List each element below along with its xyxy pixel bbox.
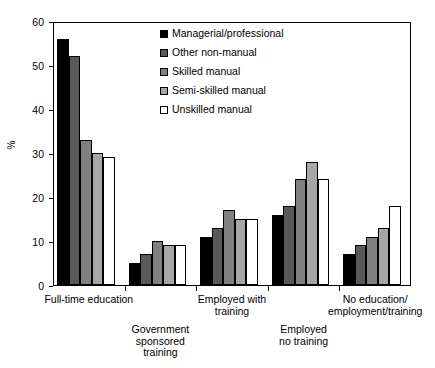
bar bbox=[246, 219, 258, 285]
y-tick-label: 40 bbox=[22, 105, 44, 116]
legend-item: Unskilled manual bbox=[160, 100, 350, 119]
bar bbox=[343, 254, 355, 285]
bar bbox=[306, 162, 318, 285]
legend-item: Skilled manual bbox=[160, 62, 350, 81]
bar bbox=[272, 215, 284, 285]
x-category-label: Employed with training bbox=[173, 294, 291, 317]
bar bbox=[92, 153, 104, 285]
y-tick-label: 30 bbox=[22, 149, 44, 160]
y-tick-label: 20 bbox=[22, 193, 44, 204]
bar-chart: % 0102030405060 Full-time educationGover… bbox=[0, 0, 435, 368]
bar bbox=[175, 245, 187, 285]
bar bbox=[223, 210, 235, 285]
y-tick-label: 10 bbox=[22, 237, 44, 248]
bar bbox=[355, 245, 367, 285]
bar bbox=[389, 206, 401, 285]
bar bbox=[378, 228, 390, 285]
bar bbox=[80, 140, 92, 285]
legend-swatch-icon bbox=[160, 87, 168, 95]
x-category-label: Full-time education bbox=[30, 294, 148, 306]
legend-label: Semi-skilled manual bbox=[172, 85, 266, 96]
x-category-label: No education/ employment/training bbox=[316, 294, 434, 317]
x-category-label: Employed no training bbox=[245, 324, 363, 347]
bar bbox=[295, 179, 307, 285]
legend-swatch-icon bbox=[160, 106, 168, 114]
legend-item: Other non-manual bbox=[160, 43, 350, 62]
legend-label: Other non-manual bbox=[172, 47, 257, 58]
bar bbox=[140, 254, 152, 285]
legend-swatch-icon bbox=[160, 68, 168, 76]
x-axis-category-labels: Full-time educationGovernment sponsored … bbox=[0, 286, 435, 368]
bar bbox=[235, 219, 247, 285]
bar bbox=[103, 157, 115, 285]
bar bbox=[318, 179, 330, 285]
legend-label: Managerial/professional bbox=[172, 28, 283, 39]
x-category-label: Government sponsored training bbox=[101, 324, 219, 359]
bar bbox=[69, 56, 81, 285]
bar bbox=[163, 245, 175, 285]
legend-label: Skilled manual bbox=[172, 66, 240, 77]
legend-label: Unskilled manual bbox=[172, 104, 252, 115]
legend-swatch-icon bbox=[160, 49, 168, 57]
y-axis-title: % bbox=[7, 141, 17, 150]
legend-item: Semi-skilled manual bbox=[160, 81, 350, 100]
bar bbox=[57, 39, 69, 285]
legend: Managerial/professionalOther non-manualS… bbox=[160, 24, 350, 119]
legend-item: Managerial/professional bbox=[160, 24, 350, 43]
bar bbox=[212, 228, 224, 285]
bar bbox=[366, 237, 378, 285]
y-tick-label: 60 bbox=[22, 17, 44, 28]
bar bbox=[152, 241, 164, 285]
bar bbox=[283, 206, 295, 285]
bar bbox=[129, 263, 141, 285]
legend-swatch-icon bbox=[160, 30, 168, 38]
y-tick-label: 50 bbox=[22, 61, 44, 72]
bar bbox=[200, 237, 212, 285]
